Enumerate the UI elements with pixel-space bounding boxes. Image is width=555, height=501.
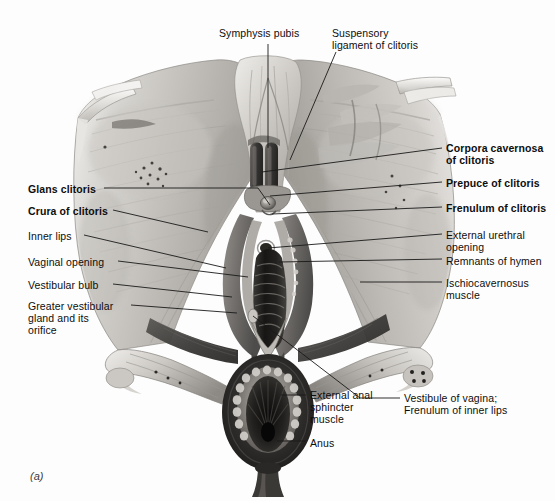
label-inner-lips: Inner lips [28, 230, 72, 242]
label-vaginal-opening: Vaginal opening [28, 256, 104, 268]
label-crura-of-clitoris: Crura of clitoris [28, 205, 108, 217]
label-external-anal-sphincter-muscle: External anal sphincter muscle [310, 389, 373, 426]
label-remnants-of-hymen: Remnants of hymen [446, 255, 542, 267]
anatomy-figure: Symphysis pubisSuspensory ligament of cl… [0, 0, 555, 501]
label-external-urethral-opening: External urethral opening [446, 229, 525, 253]
label-glans-clitoris: Glans clitoris [28, 183, 96, 195]
figure-caption: (a) [30, 470, 43, 482]
label-prepuce-of-clitoris: Prepuce of clitoris [446, 177, 540, 189]
label-greater-vestibular-gland-and-its-orifice: Greater vestibular gland and its orifice [28, 300, 113, 337]
label-frenulum-of-clitoris: Frenulum of clitoris [446, 202, 546, 214]
label-corpora-cavernosa-of-clitoris: Corpora cavernosa of clitoris [446, 142, 544, 166]
label-anus: Anus [310, 437, 334, 449]
label-symphysis-pubis: Symphysis pubis [219, 27, 299, 39]
label-vestibule-of-vagina-frenulum-of-inner-lips: Vestibule of vagina; Frenulum of inner l… [404, 392, 507, 416]
label-ischiocavernosus-muscle: Ischiocavernosus muscle [446, 277, 529, 301]
label-suspensory-ligament-of-clitoris: Suspensory ligament of clitoris [332, 27, 418, 51]
label-vestibular-bulb: Vestibular bulb [28, 279, 98, 291]
